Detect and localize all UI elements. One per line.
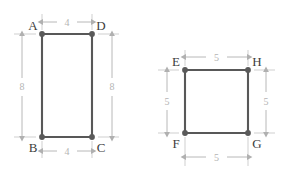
dimension-left-figure-top: 4 xyxy=(43,17,91,28)
vertex-dot-b xyxy=(39,134,45,140)
dimension-right-figure-left: 5 xyxy=(165,72,170,132)
dimension-label: 4 xyxy=(65,17,70,28)
dimension-label: 4 xyxy=(65,146,70,157)
vertex-dot-a xyxy=(39,31,45,37)
rectangle-abcd-outline xyxy=(42,34,92,137)
vertex-dot-c xyxy=(89,134,95,140)
dimension-left-figure-left: 8 xyxy=(20,36,25,136)
vertex-label-d: D xyxy=(96,18,105,33)
vertex-label-h: H xyxy=(252,54,261,69)
vertex-label-e: E xyxy=(172,54,180,69)
dimension-left-figure-bottom: 4 xyxy=(43,146,91,157)
dimension-label: 8 xyxy=(20,81,25,92)
vertex-dot-f xyxy=(182,130,188,136)
dimension-label: 5 xyxy=(214,52,219,63)
dimension-right-figure-top: 5 xyxy=(186,52,247,63)
figure-left: 4 4 8 8 A D B C xyxy=(14,14,119,158)
vertex-label-f: F xyxy=(172,136,179,151)
figure-right: 5 5 5 5 E H F G xyxy=(158,50,275,166)
dimension-left-figure-right: 8 xyxy=(110,36,115,136)
dimension-label: 8 xyxy=(110,81,115,92)
vertex-label-a: A xyxy=(28,18,38,33)
vertex-label-g: G xyxy=(252,136,261,151)
dimension-label: 5 xyxy=(165,96,170,107)
vertex-label-c: C xyxy=(97,140,106,155)
vertex-dot-d xyxy=(89,31,95,37)
square-efgh-outline xyxy=(185,70,248,133)
dimension-right-figure-bottom: 5 xyxy=(186,152,247,163)
dimension-label: 5 xyxy=(264,96,269,107)
geometry-diagram: 4 4 8 8 A D B C xyxy=(0,0,295,171)
vertex-dot-g xyxy=(245,130,251,136)
vertex-dot-h xyxy=(245,67,251,73)
vertex-label-b: B xyxy=(29,140,38,155)
vertex-dot-e xyxy=(182,67,188,73)
dimension-right-figure-right: 5 xyxy=(264,72,269,132)
dimension-label: 5 xyxy=(214,152,219,163)
diagram-canvas: 4 4 8 8 A D B C xyxy=(0,0,295,171)
